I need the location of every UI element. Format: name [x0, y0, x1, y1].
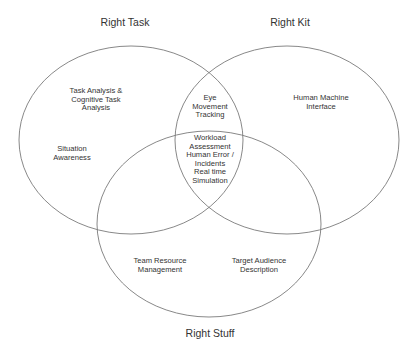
eye-movement-tracking-label: Eye Movement Tracking [192, 94, 227, 120]
human-machine-interface-label: Human Machine Interface [293, 94, 348, 111]
team-resource-management-label: Team Resource Management [133, 257, 186, 274]
right-task-title: Right Task [101, 16, 150, 28]
center-intersection-label: Workload Assessment Human Error / Incide… [186, 134, 234, 186]
situation-awareness-label: Situation Awareness [53, 145, 90, 162]
right-stuff-title: Right Stuff [186, 327, 235, 339]
task-analysis-label: Task Analysis & Cognitive Task Analysis [70, 87, 123, 113]
target-audience-description-label: Target Audience Description [232, 257, 286, 274]
right-kit-title: Right Kit [270, 16, 310, 28]
